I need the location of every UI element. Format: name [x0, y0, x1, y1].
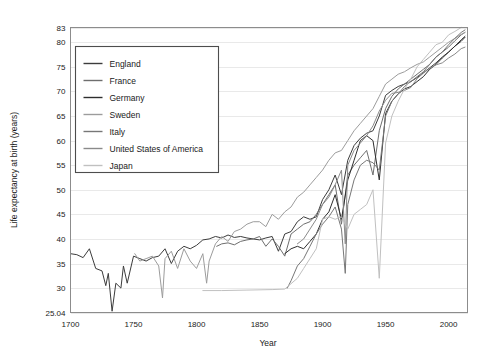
legend-label-sweden: Sweden [110, 110, 141, 120]
chart-svg: 25.04303540455055606570758083 1700175018… [0, 0, 495, 356]
y-tick-label-10: 75 [57, 63, 66, 72]
x-axis-title: Year [259, 338, 276, 348]
y-tick-label-6: 55 [57, 161, 66, 170]
y-tick-label-7: 60 [57, 137, 66, 146]
y-tick-label-11: 80 [57, 38, 66, 47]
legend-label-germany: Germany [110, 93, 146, 103]
x-tick-label-0: 1700 [62, 320, 80, 329]
legend: EnglandFranceGermanySwedenItalyUnited St… [76, 47, 219, 173]
y-tick-label-4: 45 [57, 210, 66, 219]
series-line-japan [203, 28, 461, 291]
legend-label-italy: Italy [110, 127, 126, 137]
y-axis-tick-labels: 25.04303540455055606570758083 [45, 24, 66, 318]
legend-label-england: England [110, 59, 141, 69]
legend-label-united-states-of-america: United States of America [110, 144, 204, 154]
legend-label-japan: Japan [110, 161, 133, 171]
y-tick-label-8: 65 [57, 112, 66, 121]
x-axis-tick-labels: 1700175018001850190019502000 [62, 320, 458, 329]
y-tick-label-0: 25.04 [45, 309, 66, 318]
y-tick-label-1: 30 [57, 284, 66, 293]
y-axis-title: Life expectancy at birth (years) [9, 112, 19, 228]
y-tick-label-12: 83 [57, 24, 66, 33]
x-tick-label-2: 1800 [188, 320, 206, 329]
y-tick-label-9: 70 [57, 87, 66, 96]
x-tick-label-3: 1850 [251, 320, 269, 329]
x-tick-label-5: 1950 [377, 320, 395, 329]
x-tick-label-4: 1900 [314, 320, 332, 329]
x-tick-label-6: 2000 [440, 320, 458, 329]
life-expectancy-chart: 25.04303540455055606570758083 1700175018… [0, 0, 495, 356]
x-tick-label-1: 1750 [125, 320, 143, 329]
y-tick-label-2: 35 [57, 260, 66, 269]
y-tick-label-5: 50 [57, 186, 66, 195]
y-tick-label-3: 40 [57, 235, 66, 244]
legend-label-france: France [110, 76, 137, 86]
